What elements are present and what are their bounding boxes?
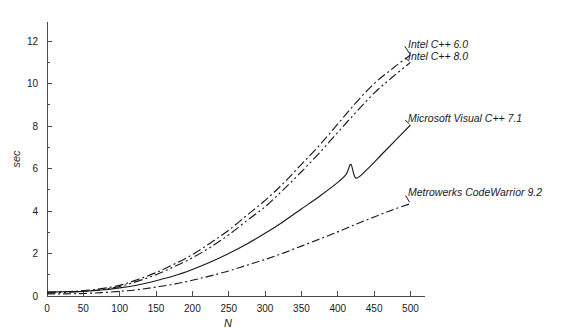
y-tick-label: 0 [32, 291, 38, 302]
series-label-3: Metrowerks CodeWarrior 9.2 [408, 186, 542, 198]
y-tick-label: 4 [32, 206, 38, 217]
x-tick-label: 200 [184, 303, 201, 314]
x-tick-label: 400 [329, 303, 346, 314]
chart-container: 024681012050100150200250300350400450500 … [0, 0, 561, 328]
x-tick-label: 450 [366, 303, 383, 314]
y-tick-label: 6 [32, 163, 38, 174]
x-axis-title: N [224, 317, 232, 328]
x-tick-label: 250 [220, 303, 237, 314]
line-chart: 024681012050100150200250300350400450500 … [0, 0, 561, 328]
series-label-0: Intel C++ 6.0 [408, 38, 468, 50]
y-axis-title: sec [10, 150, 22, 168]
y-tick-label: 12 [27, 36, 39, 47]
y-tick-label: 8 [32, 121, 38, 132]
series-label-1: Intel C++ 8.0 [408, 50, 468, 62]
x-tick-label: 300 [257, 303, 274, 314]
x-tick-label: 0 [44, 303, 50, 314]
x-tick-label: 50 [78, 303, 90, 314]
y-tick-label: 10 [27, 78, 39, 89]
x-tick-label: 500 [402, 303, 419, 314]
x-tick-label: 350 [293, 303, 310, 314]
y-tick-label: 2 [32, 248, 38, 259]
chart-background [0, 0, 561, 328]
x-tick-label: 150 [148, 303, 165, 314]
x-tick-label: 100 [111, 303, 128, 314]
series-label-2: Microsoft Visual C++ 7.1 [408, 112, 522, 124]
